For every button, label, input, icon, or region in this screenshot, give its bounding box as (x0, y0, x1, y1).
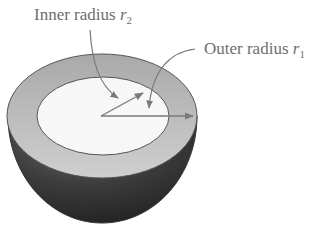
outer-radius-label: Outer radius r1 (204, 39, 305, 60)
hemisphere-shell-diagram: Inner radius r2 Outer radius r1 (0, 0, 329, 232)
inner-radius-label: Inner radius r2 (34, 5, 132, 26)
